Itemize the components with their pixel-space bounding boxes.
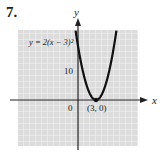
y-tick-label-10: 10 [64,66,74,76]
vertex-point [94,98,98,102]
y-axis-arrow-icon [75,18,81,26]
vertex-label: (3, 0) [87,103,107,113]
y-axis-label: y [73,6,79,18]
equation-label: y = 2(x − 3)² [28,37,74,47]
parabola-chart: x y 0 10 (3, 0) y = 2(x − 3)² [0,0,164,154]
x-axis-label: x [151,94,157,106]
x-axis-arrow-icon [140,97,148,103]
origin-label: 0 [68,103,73,113]
